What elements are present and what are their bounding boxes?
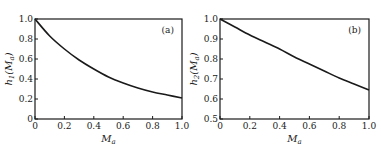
panel-label: (b) xyxy=(348,25,361,35)
plot-frame xyxy=(35,19,182,119)
x-tick-label: 1.0 xyxy=(175,121,190,131)
y-tick-label: 0.6 xyxy=(204,94,219,104)
y-tick-label: 1.0 xyxy=(204,14,219,24)
y-axis-label: h1(Ma) xyxy=(3,52,16,85)
x-tick-label: 0.4 xyxy=(87,121,102,131)
y-tick-label: 0 xyxy=(27,114,33,124)
y-axis-label: h2(Ma) xyxy=(188,52,201,85)
y-tick-label: 0.8 xyxy=(204,54,219,64)
x-tick-label: 0.8 xyxy=(332,121,347,131)
x-tick-label: 0.6 xyxy=(116,121,131,131)
figure-canvas: 00.20.40.60.81.000.20.40.60.81.0Mah1(Ma)… xyxy=(0,0,381,155)
panel-a: 00.20.40.60.81.000.20.40.60.81.0Mah1(Ma)… xyxy=(3,14,189,146)
y-tick-label: 0.5 xyxy=(204,114,219,124)
x-tick-label: 1.0 xyxy=(362,121,377,131)
curve-h1 xyxy=(35,19,182,98)
curve-h2 xyxy=(220,19,369,90)
x-tick-label: 0.2 xyxy=(57,121,71,131)
panel-label: (a) xyxy=(162,25,174,35)
y-tick-label: 0.8 xyxy=(19,34,34,44)
x-axis-label: Ma xyxy=(100,133,115,146)
x-axis-label: Ma xyxy=(286,133,301,146)
y-tick-label: 0.9 xyxy=(204,34,219,44)
x-tick-label: 0.8 xyxy=(145,121,160,131)
y-tick-label: 0.4 xyxy=(19,74,34,84)
figure: 00.20.40.60.81.000.20.40.60.81.0Mah1(Ma)… xyxy=(0,0,381,155)
y-tick-label: 0.2 xyxy=(19,94,33,104)
x-tick-label: 0 xyxy=(32,121,38,131)
y-tick-label: 1.0 xyxy=(19,14,34,24)
y-tick-label: 0.7 xyxy=(204,74,219,84)
plot-frame xyxy=(220,19,369,119)
panel-b: 00.20.40.60.81.00.50.60.70.80.91.0Mah2(M… xyxy=(188,14,376,146)
x-tick-label: 0 xyxy=(217,121,223,131)
x-tick-label: 0.2 xyxy=(243,121,257,131)
x-tick-label: 0.6 xyxy=(302,121,317,131)
y-tick-label: 0.6 xyxy=(19,54,34,64)
x-tick-label: 0.4 xyxy=(272,121,287,131)
